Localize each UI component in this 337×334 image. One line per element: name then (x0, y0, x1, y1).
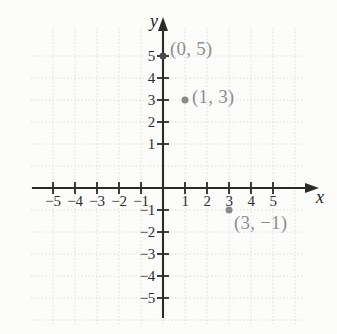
y-tick-label-5: 5 (148, 49, 155, 64)
y-tick-label-neg3: −3 (140, 247, 155, 262)
x-tick-label-neg5: −5 (45, 194, 60, 209)
data-point-label-0-5: (0, 5) (170, 39, 212, 58)
y-axis-arrowhead (158, 17, 168, 31)
data-point-0-5 (160, 53, 167, 60)
x-tick-label-4: 4 (247, 194, 254, 209)
x-tick-label-neg2: −2 (111, 194, 126, 209)
y-tick-label-neg2: −2 (140, 225, 155, 240)
x-tick-label-5: 5 (269, 194, 276, 209)
data-point-3-neg1 (226, 207, 233, 214)
x-tick-label-neg4: −4 (67, 194, 82, 209)
y-tick-label-1: 1 (148, 137, 155, 152)
coordinate-plane-figure: y x −5 −4 −3 −2 −1 1 2 3 4 5 5 4 3 2 1 −… (0, 0, 337, 334)
x-axis-label: x (316, 188, 324, 206)
x-tick-label-neg3: −3 (89, 194, 104, 209)
y-tick-label-neg1: −1 (140, 203, 155, 218)
data-point-label-3-neg1: (3, −1) (234, 213, 287, 232)
y-tick-label-2: 2 (148, 115, 155, 130)
x-tick-label-1: 1 (181, 194, 188, 209)
y-tick-label-neg4: −4 (140, 269, 155, 284)
x-tick-label-2: 2 (203, 194, 210, 209)
data-point-1-3 (182, 97, 189, 104)
data-point-label-1-3: (1, 3) (192, 87, 234, 106)
y-tick-label-3: 3 (148, 93, 155, 108)
axes (0, 0, 337, 334)
y-tick-label-4: 4 (148, 71, 155, 86)
y-tick-label-neg5: −5 (140, 291, 155, 306)
y-axis-label: y (150, 12, 158, 30)
